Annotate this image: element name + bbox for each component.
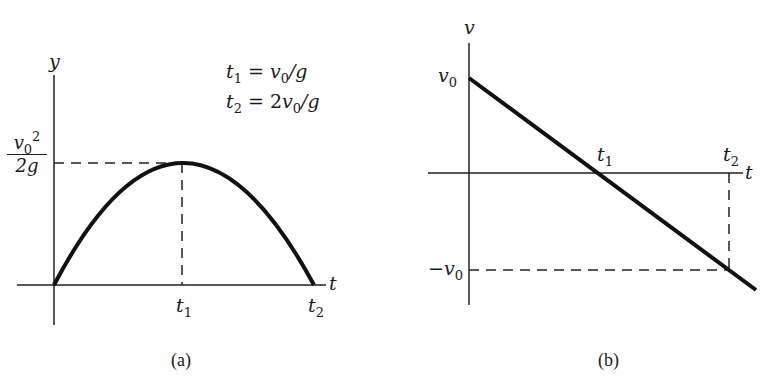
equation-t2: t2 = 2v0/g — [226, 90, 320, 112]
panel-b-velocity-graph: v t v0 −v0 t1 t2 (b) — [380, 0, 765, 389]
v0-tick-label: v0 — [438, 66, 457, 85]
position-curve — [54, 163, 314, 285]
y-axis-label: y — [49, 52, 60, 71]
neg-v0-tick-label: −v0 — [428, 259, 463, 278]
t1-tick-label: t1 — [597, 145, 613, 164]
velocity-line — [469, 78, 756, 290]
velocity-plot — [380, 0, 765, 389]
caption-a: (a) — [171, 350, 191, 371]
equation-t1: t1 = v0/g — [226, 60, 308, 82]
t1-tick-label: t1 — [176, 296, 192, 315]
t-axis-label: t — [745, 163, 753, 182]
panel-a-position-graph: y t v02 2g t1 t2 t1 = v0/g t2 = 2v0/g (a… — [0, 0, 380, 389]
t-axis-label: t — [329, 274, 337, 293]
caption-b: (b) — [598, 350, 619, 371]
peak-height-label: v02 2g — [4, 134, 50, 175]
t2-tick-label: t2 — [723, 145, 739, 164]
v-axis-label: v — [464, 18, 475, 37]
t2-tick-label: t2 — [308, 296, 324, 315]
